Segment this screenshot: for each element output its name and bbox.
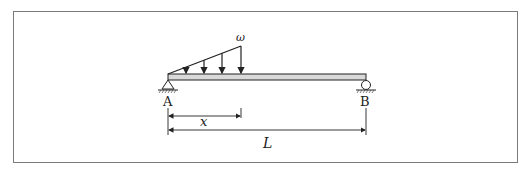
load-intensity-label: ω — [236, 31, 245, 44]
dimension-lines — [168, 108, 366, 135]
support-a-label: A — [163, 94, 172, 109]
pin-support-icon — [158, 80, 178, 93]
length-l-label: L — [263, 135, 272, 151]
beam — [168, 74, 366, 80]
distance-x-label: x — [200, 114, 207, 129]
triangular-load — [168, 46, 241, 74]
roller-support-icon — [356, 81, 376, 94]
support-b-label: B — [360, 94, 370, 109]
